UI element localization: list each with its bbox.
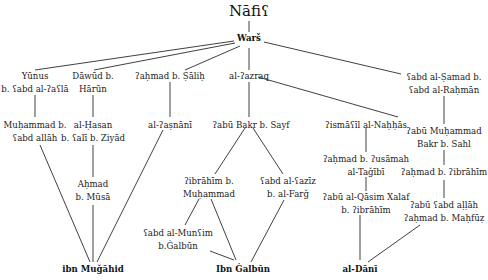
node-wars: Warš [237,32,261,45]
node-nafi: Nāfiʕ [229,2,269,20]
node-label: ʕabd al-ʕazīz [260,175,316,188]
node-label: Muḥammad [183,188,235,201]
node-label: al-Ḥasan [61,119,125,132]
node-dani: al-Dānī [343,263,378,276]
node-label: ʔabū al-Qāsim Xalaf [323,191,410,204]
edge-ibrahim-ibn-galbun [211,199,236,260]
node-abu-bakr-sayf: ʔabū Bakr b. Sayf [213,119,290,132]
node-label: ʔismāʕīl al-Naḥḥās [325,119,407,132]
node-label: Dāwūd b. [72,70,113,83]
node-ibrahim-muhammad: ʔibrāhīm b. Muḥammad [183,175,235,200]
node-ibn-mujahid: ibn Muǧāhid [62,263,123,276]
edge-muhammad-ibn-mujahid [40,145,90,262]
node-label: b. ʕalī b. Ziyād [61,132,125,145]
node-label: ʔibrāhīm b. [183,175,235,188]
edge-abd-aziz-ibn-galbun [251,200,284,262]
node-label: Muḥammad b. [4,119,67,132]
node-abu-abdallah: ʔabū ʕabd aḷḷāh ʔaḥmad b. Maḥfūẓ [404,199,484,224]
node-ibn-galbun: Ibn Ġalbūn [216,263,270,276]
node-label: ʔaḥmad b. Maḥfūẓ [404,212,484,225]
node-label: ʔaḥmad b. Ṣāliḥ [135,70,205,83]
edge-ibrahim-abd-munim [185,199,199,225]
node-asnani: al-ʔaṣnānī [148,119,192,132]
edge-wars-yunus [35,41,234,70]
node-yunus: Yūnus b. ʕabd al-ʔaʕlā [1,70,68,95]
node-label: ʔabū ʕabd aḷḷāh [404,199,484,212]
node-abd-aziz: ʕabd al-ʕazīz b. al-Farǧ [260,175,316,200]
edge-wars-ahmad-salih [185,46,240,70]
edge-wars-abd-samad [264,42,401,74]
node-abd-munim: ʕabd al-Munʕim b.Ġalbūn [143,227,213,252]
node-label: Hārūn [72,83,113,96]
node-label: b. Mūsā [76,191,111,204]
node-label: al-ʔaṣnānī [148,119,192,132]
node-label: al-Taǧībī [323,166,409,179]
node-label: ʕabd allāh [4,132,67,145]
node-label: ʔaḥmad b. ʔibrāhīm [401,166,487,179]
node-label: Nāfiʕ [229,2,269,20]
node-label: b. ʔibrāhīm [323,204,410,217]
node-label: b. ʕabd al-ʔaʕlā [1,83,68,96]
node-label: ʔaḥmad b. ʔusāmah [323,153,409,166]
edge-wars-dawud [94,43,235,70]
node-label: Warš [237,32,261,45]
node-label: ʕabd al-Raḥmān [407,84,482,97]
edge-abd-munim-ibn-galbun [210,251,234,260]
edge-azraq-ismail [258,77,398,117]
edge-abu-bakr-ibrahim [215,128,245,174]
node-label: b. al-Farǧ [260,188,316,201]
node-label: ʕabd al-Ṣamad b. [407,71,482,84]
node-label: Aḥmad [76,178,111,191]
node-dawud: Dāwūd b. Hārūn [72,70,113,95]
node-azraq: al-ʔazraq [229,70,269,83]
node-label: Yūnus [1,70,68,83]
node-label: b.Ġalbūn [143,240,213,253]
node-ahmad-usamah: ʔaḥmad b. ʔusāmah al-Taǧībī [323,153,409,178]
node-abu-qasim: ʔabū al-Qāsim Xalaf b. ʔibrāhīm [323,191,410,216]
node-abu-muhammad: ʔabū Muḥammad Bakr b. Sahl [406,125,481,150]
edge-abu-bakr-abd-aziz [253,128,283,174]
edge-abu-abdallah-dani [368,225,420,262]
node-ahmad-salih: ʔaḥmad b. Ṣāliḥ [135,70,205,83]
node-label: Ibn Ġalbūn [216,263,270,276]
node-ahmad-ibrahim: ʔaḥmad b. ʔibrāhīm [401,166,487,179]
node-ahmad-musa: Aḥmad b. Mūsā [76,178,111,203]
node-hasan: al-Ḥasan b. ʕalī b. Ziyād [61,119,125,144]
node-muhammad-abdallah: Muḥammad b. ʕabd allāh [4,119,67,144]
node-label: Bakr b. Sahl [406,138,481,151]
node-label: ibn Muǧāhid [62,263,123,276]
node-label: ʕabd al-Munʕim [143,227,213,240]
node-label: ʔabū Bakr b. Sayf [213,119,290,132]
node-label: ʔabū Muḥammad [406,125,481,138]
node-ismail-nahhas: ʔismāʕīl al-Naḥḥās [325,119,407,132]
node-label: al-Dānī [343,263,378,276]
node-label: al-ʔazraq [229,70,269,83]
node-abd-samad: ʕabd al-Ṣamad b. ʕabd al-Raḥmān [407,71,482,96]
